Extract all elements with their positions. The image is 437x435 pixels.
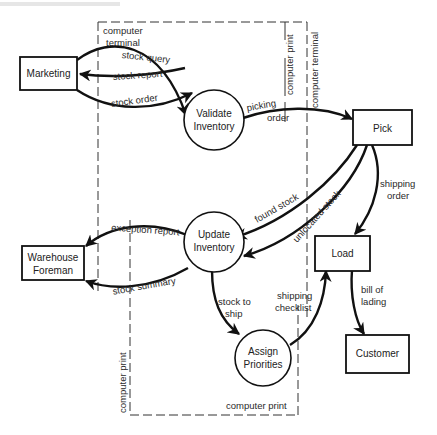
flow-found-stock: [236, 145, 357, 237]
process-assign-priorities: Assign Priorities: [235, 330, 291, 386]
data-flow-diagram: computer terminal computer print compute…: [0, 0, 437, 435]
entity-load: Load: [315, 236, 370, 271]
label-shipping-checklist-line2: checklist: [275, 302, 312, 313]
label-picking-order-line2: order: [267, 112, 289, 123]
process-update-inventory: Update Inventory: [184, 212, 244, 272]
label-stock-query: stock query: [121, 49, 171, 65]
label-shipping-checklist-line1: shipping: [277, 290, 312, 301]
entity-customer: Customer: [346, 335, 409, 373]
boundary-label-terminal-top-right: computer terminal: [309, 32, 320, 108]
entity-load-label: Load: [331, 248, 353, 259]
process-assign-priorities-label-line2: Priorities: [244, 359, 283, 370]
entity-warehouse-foreman-label-line2: Foreman: [33, 265, 73, 276]
entity-pick: Pick: [353, 110, 412, 145]
boundary-label-terminal-line1: computer: [103, 25, 143, 36]
label-exception-report: exception report: [111, 222, 180, 238]
label-stock-to-ship-line2: ship: [225, 308, 242, 319]
label-bill-of-lading-line1: bill of: [361, 284, 384, 295]
label-shipping-order-line1: shipping: [380, 178, 415, 189]
process-validate-inventory-label-line2: Inventory: [193, 121, 234, 132]
entity-marketing-label: Marketing: [27, 68, 71, 79]
flow-labels: stock query stock report stock order pic…: [110, 49, 415, 319]
label-stock-to-ship-line1: stock to: [218, 296, 251, 307]
boundary-label-print-top-right: computer print: [284, 34, 295, 95]
entity-warehouse-foreman-label-line1: Warehouse: [28, 252, 79, 263]
label-stock-report: stock report: [112, 68, 163, 82]
entity-customer-label: Customer: [356, 348, 400, 359]
boundary-label-print-bottom-left: computer print: [117, 352, 128, 413]
entity-pick-label: Pick: [373, 123, 393, 134]
flow-shipping-order: [355, 145, 378, 234]
process-update-inventory-label-line1: Update: [198, 229, 231, 240]
process-assign-priorities-label-line1: Assign: [248, 346, 278, 357]
label-stock-summary: stock summary: [112, 275, 177, 297]
entity-warehouse-foreman: Warehouse Foreman: [22, 246, 84, 280]
label-shipping-order-line2: order: [387, 190, 409, 201]
boundary-label-print-bottom: computer print: [226, 400, 287, 411]
process-update-inventory-label-line2: Inventory: [193, 242, 234, 253]
process-validate-inventory: Validate Inventory: [184, 90, 244, 150]
label-bill-of-lading-line2: lading: [361, 296, 386, 307]
process-validate-inventory-label-line1: Validate: [196, 108, 232, 119]
entity-marketing: Marketing: [20, 57, 77, 90]
